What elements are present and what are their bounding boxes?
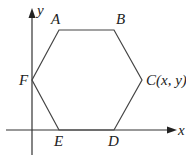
vertex-label-d: D: [107, 133, 119, 149]
y-axis-arrow-icon: [29, 8, 36, 18]
x-axis-label: x: [177, 122, 185, 138]
hexagon-ABCDEF: [32, 30, 142, 130]
vertex-label-c: C(x, y): [146, 72, 186, 89]
vertex-label-f: F: [18, 72, 29, 88]
vertex-label-e: E: [53, 133, 63, 149]
hexagon-diagram: y x A B C(x, y) D E F: [0, 0, 186, 158]
y-axis: [29, 8, 36, 155]
y-axis-label: y: [35, 2, 44, 18]
vertex-label-a: A: [50, 11, 61, 27]
x-axis-arrow-icon: [167, 127, 177, 134]
diagram-canvas: y x A B C(x, y) D E F: [0, 0, 186, 158]
vertex-label-b: B: [116, 11, 125, 27]
